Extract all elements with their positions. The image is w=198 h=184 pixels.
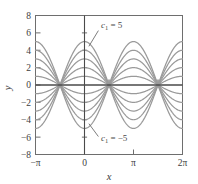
figure-container: 86420−2−4−6−8 −π0π2π x y c1 = 5c1 = −5 bbox=[0, 0, 198, 184]
y-axis-title: y bbox=[2, 85, 13, 91]
y-tick-label: 4 bbox=[26, 46, 31, 56]
plot-svg: 86420−2−4−6−8 −π0π2π x y c1 = 5c1 = −5 bbox=[0, 0, 198, 184]
upper-parameter-label: c1 = 5 bbox=[101, 20, 123, 31]
y-tick-label: −6 bbox=[21, 133, 31, 143]
y-tick-label: −2 bbox=[21, 98, 31, 108]
x-tick-label: 2π bbox=[178, 158, 188, 168]
y-tick-label: 0 bbox=[26, 80, 31, 90]
x-axis-title: x bbox=[106, 171, 112, 182]
y-tick-label: −4 bbox=[21, 115, 31, 125]
y-tick-label: 6 bbox=[26, 28, 31, 38]
x-tick-label: 0 bbox=[82, 158, 87, 168]
y-tick-label: 2 bbox=[26, 63, 31, 73]
y-tick-label: 8 bbox=[26, 11, 31, 21]
parameter-value: = −5 bbox=[108, 133, 128, 143]
x-tick-label: π bbox=[131, 158, 136, 168]
x-tick-label: −π bbox=[30, 158, 40, 168]
parameter-value: = 5 bbox=[108, 20, 123, 30]
